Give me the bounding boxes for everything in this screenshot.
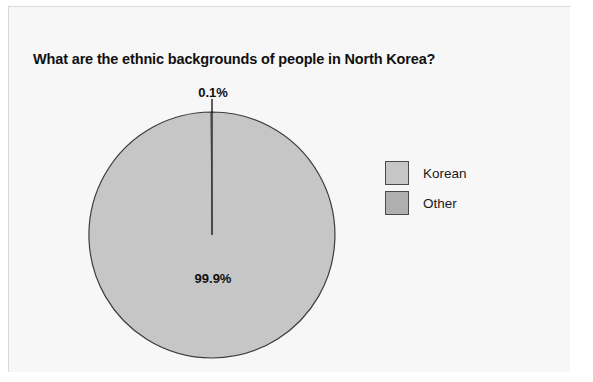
chart-figure: What are the ethnic backgrounds of peopl… xyxy=(0,0,593,382)
legend-label-other: Other xyxy=(423,196,457,211)
chart-legend: Korean Other xyxy=(385,158,535,218)
legend-swatch-other xyxy=(385,191,409,215)
pie-label-other: 0.1% xyxy=(198,85,228,100)
pie-label-korean: 99.9% xyxy=(195,271,232,286)
legend-label-korean: Korean xyxy=(423,166,467,181)
legend-item-other[interactable]: Other xyxy=(385,188,535,218)
legend-item-korean[interactable]: Korean xyxy=(385,158,535,188)
legend-swatch-korean xyxy=(385,161,409,185)
